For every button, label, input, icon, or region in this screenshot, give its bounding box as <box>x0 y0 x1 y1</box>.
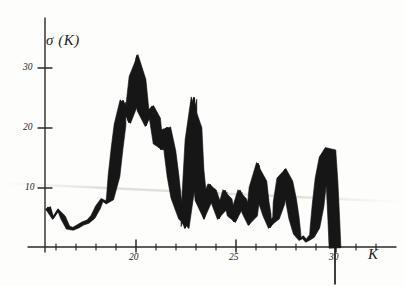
y-tick-label-10: 10 <box>25 182 35 192</box>
x-axis-label: K <box>368 246 378 263</box>
x-axis-ticks <box>56 240 376 252</box>
y-axis-label: σ (K) <box>46 32 80 49</box>
x-tick-label-30: 30 <box>329 252 339 262</box>
x-tick-label-25: 25 <box>229 252 239 262</box>
y-tick-label-20: 20 <box>23 122 33 132</box>
figure-panel: σ (K) K 30 20 10 20 25 30 <box>0 0 404 286</box>
axis-lines <box>28 18 396 252</box>
y-tick-label-30: 30 <box>23 62 33 72</box>
x-tick-label-20: 20 <box>129 252 139 262</box>
